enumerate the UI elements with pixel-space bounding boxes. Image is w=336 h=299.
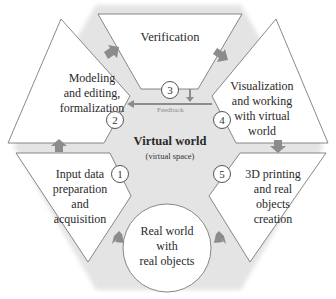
visualization-label: Visualization and working with virtual w…: [212, 79, 312, 139]
printing-label: 3D printing and real objects creation: [234, 167, 312, 227]
real-world-label: Real world with real objects: [127, 224, 207, 269]
stage-1-number-badge: 1: [111, 165, 129, 183]
feedback-label: Feedback: [157, 106, 184, 114]
verification-label: Verification: [130, 30, 210, 45]
stage-5-number-badge: 5: [213, 165, 231, 183]
virtual-world-subtitle: (virtual space): [128, 151, 212, 161]
virtual-world-cycle-diagram: Verification Modeling and editing, forma…: [0, 0, 336, 299]
stage-2-number-badge: 2: [106, 111, 124, 129]
stage-4-number-badge: 4: [213, 111, 231, 129]
input-data-label: Input data preparation and acquisition: [52, 167, 108, 227]
virtual-world-title: Virtual world: [128, 134, 212, 149]
modeling-label: Modeling and editing, formalization: [52, 71, 132, 116]
stage-3-number-badge: 3: [161, 81, 179, 99]
